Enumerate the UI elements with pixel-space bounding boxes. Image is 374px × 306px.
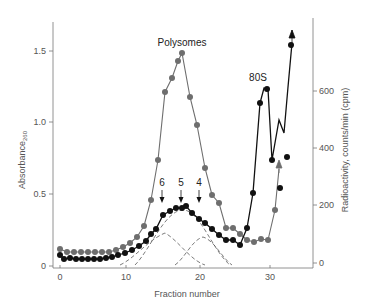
y2-tick-400: 400 xyxy=(319,143,334,153)
y-tick-0.5: 0.5 xyxy=(33,189,46,199)
x-axis xyxy=(53,265,313,268)
arrow-5: 5 xyxy=(178,177,184,203)
y-tick-1.0: 1.0 xyxy=(33,117,46,127)
sucrose-gradient-chart: 0 0.5 1.0 1.5 0 10 20 30 0 200 400 600 F… xyxy=(0,0,374,306)
y2-tick-0: 0 xyxy=(319,258,324,268)
series-radioactivity xyxy=(57,30,295,262)
arrow-6: 6 xyxy=(159,177,165,203)
y-tick-0: 0 xyxy=(41,261,46,271)
y2-tick-200: 200 xyxy=(319,200,334,210)
right-axis xyxy=(313,18,317,268)
x-tick-0: 0 xyxy=(57,272,62,282)
annotation-polysomes: Polysomes xyxy=(158,37,207,48)
y-axis-label: Absorbance260 xyxy=(17,130,28,189)
y-axis-label-main: Absorbance xyxy=(17,141,27,189)
left-axis xyxy=(49,22,53,268)
y-axis-label-subscript: 260 xyxy=(22,130,28,141)
svg-text:4: 4 xyxy=(196,177,202,188)
y2-axis-label: Radioactivity, counts/min (cpm) xyxy=(340,88,350,212)
arrow-4: 4 xyxy=(196,177,202,203)
x-tick-20: 20 xyxy=(195,272,205,282)
y2-tick-600: 600 xyxy=(319,86,334,96)
x-axis-label: Fraction number xyxy=(154,289,220,299)
svg-text:Radioactivity, counts/min (cpm: Radioactivity, counts/min (cpm) xyxy=(340,88,350,212)
y-tick-1.5: 1.5 xyxy=(33,46,46,56)
svg-text:Absorbance260: Absorbance260 xyxy=(17,130,28,189)
x-tick-10: 10 xyxy=(121,272,131,282)
x-tick-30: 30 xyxy=(265,272,275,282)
svg-text:5: 5 xyxy=(178,177,184,188)
svg-text:6: 6 xyxy=(159,177,165,188)
annotation-80s: 80S xyxy=(249,72,267,83)
